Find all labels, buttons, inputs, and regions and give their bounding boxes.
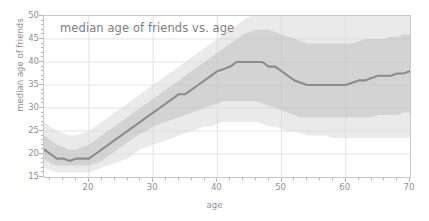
y-minor-tick-mark [41, 70, 43, 71]
x-minor-tick-mark [127, 178, 128, 180]
x-minor-tick-mark [204, 178, 205, 180]
y-minor-tick-mark [41, 148, 43, 149]
y-minor-tick-mark [41, 98, 43, 99]
x-minor-tick-mark [49, 178, 50, 180]
y-minor-tick-mark [41, 79, 43, 80]
x-minor-tick-mark [139, 178, 140, 180]
x-tick-mark [409, 178, 410, 182]
y-minor-tick-mark [41, 116, 43, 117]
x-minor-tick-mark [191, 178, 192, 180]
y-minor-tick-mark [41, 33, 43, 34]
y-minor-tick-mark [41, 56, 43, 57]
y-tick-mark [39, 130, 43, 131]
plot-area [43, 15, 411, 178]
x-minor-tick-mark [242, 178, 243, 180]
y-tick-mark [39, 153, 43, 154]
x-minor-tick-mark [229, 178, 230, 180]
confidence-band-inner [44, 30, 410, 166]
y-minor-tick-mark [41, 139, 43, 140]
y-tick-mark [39, 15, 43, 16]
y-minor-tick-mark [41, 125, 43, 126]
x-minor-tick-mark [268, 178, 269, 180]
y-axis-label: median age of friends [15, 0, 25, 130]
y-minor-tick-mark [41, 102, 43, 103]
y-minor-tick-mark [41, 89, 43, 90]
x-minor-tick-mark [319, 178, 320, 180]
y-tick-mark [39, 107, 43, 108]
x-axis-label: age [0, 200, 429, 210]
x-minor-tick-mark [101, 178, 102, 180]
y-minor-tick-mark [41, 75, 43, 76]
x-minor-tick-mark [178, 178, 179, 180]
y-minor-tick-mark [41, 24, 43, 25]
x-minor-tick-mark [114, 178, 115, 180]
x-minor-tick-mark [383, 178, 384, 180]
x-minor-tick-mark [306, 178, 307, 180]
chart-svg [44, 16, 410, 177]
x-tick-label: 30 [140, 182, 164, 192]
x-minor-tick-mark [332, 178, 333, 180]
x-tick-label: 50 [269, 182, 293, 192]
y-minor-tick-mark [41, 52, 43, 53]
x-axis-tick-labels: 203040506070 [0, 182, 429, 194]
x-tick-label: 40 [204, 182, 228, 192]
y-tick-mark [39, 38, 43, 39]
x-minor-tick-mark [358, 178, 359, 180]
y-tick-mark [39, 61, 43, 62]
y-minor-tick-mark [41, 162, 43, 163]
chart-figure: median age of friends vs. age 1520253035… [0, 0, 429, 221]
x-minor-tick-mark [62, 178, 63, 180]
y-axis-label-wrap: median age of friends [0, 0, 30, 200]
y-minor-tick-mark [41, 167, 43, 168]
x-tick-mark [88, 178, 89, 182]
x-minor-tick-mark [371, 178, 372, 180]
y-minor-tick-mark [41, 158, 43, 159]
x-tick-mark [152, 178, 153, 182]
x-tick-label: 70 [397, 182, 421, 192]
x-minor-tick-mark [396, 178, 397, 180]
x-minor-tick-mark [75, 178, 76, 180]
y-minor-tick-mark [41, 66, 43, 67]
x-minor-tick-mark [165, 178, 166, 180]
x-tick-label: 20 [76, 182, 100, 192]
y-minor-tick-mark [41, 144, 43, 145]
y-minor-tick-mark [41, 121, 43, 122]
y-tick-mark [39, 176, 43, 177]
y-minor-tick-mark [41, 43, 43, 44]
x-minor-tick-mark [293, 178, 294, 180]
x-tick-label: 60 [333, 182, 357, 192]
y-minor-tick-mark [41, 135, 43, 136]
x-minor-tick-mark [255, 178, 256, 180]
y-minor-tick-mark [41, 112, 43, 113]
y-minor-tick-mark [41, 29, 43, 30]
x-tick-mark [345, 178, 346, 182]
x-tick-mark [216, 178, 217, 182]
x-tick-mark [281, 178, 282, 182]
y-tick-mark [39, 84, 43, 85]
y-minor-tick-mark [41, 171, 43, 172]
y-minor-tick-mark [41, 20, 43, 21]
y-minor-tick-mark [41, 47, 43, 48]
chart-title: median age of friends vs. age [60, 21, 234, 35]
y-minor-tick-mark [41, 93, 43, 94]
